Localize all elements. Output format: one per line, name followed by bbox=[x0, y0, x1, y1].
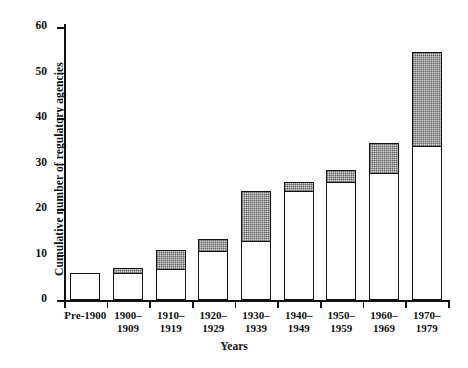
bar-segment-shaded bbox=[412, 52, 442, 147]
x-axis-tick bbox=[107, 300, 109, 308]
bar-group[interactable] bbox=[412, 52, 442, 300]
plot-area: 0102030405060 bbox=[64, 27, 448, 300]
bar-group[interactable] bbox=[70, 273, 100, 300]
bar-group[interactable] bbox=[113, 268, 143, 300]
bar-segment-shaded bbox=[241, 191, 271, 243]
bar-group[interactable] bbox=[326, 170, 356, 300]
y-axis-tick: 20 bbox=[57, 209, 64, 211]
y-axis-tick-label: 50 bbox=[36, 65, 48, 77]
bar-group[interactable] bbox=[284, 182, 314, 300]
y-axis-tick: 50 bbox=[57, 73, 64, 75]
bar-segment-shaded bbox=[113, 268, 143, 274]
bar-group[interactable] bbox=[369, 143, 399, 300]
x-axis-tick bbox=[320, 300, 322, 308]
y-axis-tick-label: 30 bbox=[36, 156, 48, 168]
y-axis-tick-label: 60 bbox=[36, 19, 48, 31]
bar-segment-base bbox=[369, 173, 399, 300]
bar-segment-shaded bbox=[284, 182, 314, 193]
x-axis-tick bbox=[405, 300, 407, 308]
y-axis-tick-label: 20 bbox=[36, 201, 48, 213]
bar-segment-shaded bbox=[369, 143, 399, 174]
y-axis-tick: 30 bbox=[57, 164, 64, 166]
x-axis-tick bbox=[192, 300, 194, 308]
bar-segment-base bbox=[326, 182, 356, 300]
x-axis-tick bbox=[64, 300, 66, 308]
bar-group[interactable] bbox=[198, 239, 228, 300]
bar-segment-shaded bbox=[198, 239, 228, 252]
bar-segment-base bbox=[198, 250, 228, 300]
bar-segment-base bbox=[284, 191, 314, 300]
x-axis-tick-label: 1970– 1979 bbox=[401, 309, 452, 335]
y-axis-tick: 0 bbox=[57, 300, 64, 302]
bar-segment-shaded bbox=[156, 250, 186, 270]
y-axis-tick-label: 10 bbox=[36, 247, 48, 259]
bar-segment-base bbox=[156, 268, 186, 300]
x-axis-tick bbox=[235, 300, 237, 308]
bar-segment-base bbox=[412, 145, 442, 300]
y-axis-tick-label: 0 bbox=[41, 292, 47, 304]
bar-group[interactable] bbox=[241, 191, 271, 300]
y-axis-tick: 40 bbox=[57, 118, 64, 120]
bar-segment-shaded bbox=[326, 170, 356, 183]
y-axis-tick: 60 bbox=[57, 27, 64, 29]
bar-segment-base bbox=[70, 273, 100, 300]
x-axis-line bbox=[64, 300, 448, 302]
bar-segment-base bbox=[241, 241, 271, 300]
y-axis-tick: 10 bbox=[57, 255, 64, 257]
x-axis-tick bbox=[149, 300, 151, 308]
x-axis-tick bbox=[448, 300, 450, 308]
x-axis-tick bbox=[363, 300, 365, 308]
x-axis-tick bbox=[277, 300, 279, 308]
y-axis-line bbox=[64, 24, 66, 300]
regulatory-agencies-bar-chart: Cumulative number of regulatory agencies… bbox=[0, 0, 468, 368]
x-axis-title: Years bbox=[0, 340, 468, 352]
bar-group[interactable] bbox=[156, 250, 186, 300]
y-axis-tick-label: 40 bbox=[36, 110, 48, 122]
bar-segment-base bbox=[113, 273, 143, 300]
